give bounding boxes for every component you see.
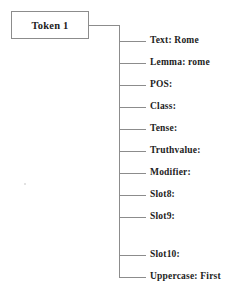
branch-row[interactable]: POS: — [119, 77, 172, 93]
branch-label: Truthvalue: — [150, 146, 201, 156]
branch-connector-line — [119, 277, 146, 278]
branch-row[interactable]: Truthvalue: — [119, 143, 201, 159]
branch-label: Slot9: — [150, 212, 175, 222]
branch-row[interactable]: Uppercase: First — [119, 269, 221, 285]
branch-row[interactable]: Modifier: — [119, 165, 191, 181]
scan-artifact-speck — [24, 183, 26, 185]
branch-connector-line — [119, 107, 146, 108]
token-tree-diagram: Token 1 Text: RomeLemma: romePOS:Class:T… — [0, 0, 238, 294]
branch-connector-line — [119, 151, 146, 152]
branch-label: Slot8: — [150, 190, 175, 200]
token-root-node[interactable]: Token 1 — [11, 11, 89, 39]
branch-row[interactable]: Slot9: — [119, 209, 175, 225]
branch-row[interactable]: Text: Rome — [119, 33, 199, 49]
branch-row[interactable]: Class: — [119, 99, 176, 115]
branch-label: POS: — [150, 80, 172, 90]
branch-connector-line — [119, 173, 146, 174]
branch-row[interactable]: Slot8: — [119, 187, 175, 203]
branch-connector-line — [119, 85, 146, 86]
branch-connector-line — [119, 63, 146, 64]
branch-label: Class: — [150, 102, 176, 112]
branch-connector-line — [119, 41, 146, 42]
branch-label: Tense: — [150, 124, 177, 134]
branch-label: Text: Rome — [150, 36, 199, 46]
branch-connector-line — [119, 195, 146, 196]
branch-row[interactable]: Slot10: — [119, 247, 180, 263]
root-connector-line — [89, 25, 120, 26]
branch-connector-line — [119, 255, 146, 256]
branch-label: Slot10: — [150, 250, 180, 260]
branch-label: Uppercase: First — [150, 272, 221, 282]
branch-connector-line — [119, 129, 146, 130]
branch-connector-line — [119, 217, 146, 218]
branch-label: Lemma: rome — [150, 58, 210, 68]
branch-label: Modifier: — [150, 168, 191, 178]
branch-row[interactable]: Tense: — [119, 121, 177, 137]
branch-row[interactable]: Lemma: rome — [119, 55, 210, 71]
token-root-label: Token 1 — [32, 20, 69, 31]
